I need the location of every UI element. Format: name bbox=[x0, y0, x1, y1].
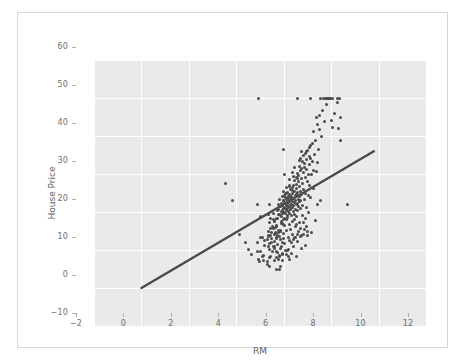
scatter-point bbox=[244, 241, 247, 244]
scatter-point bbox=[305, 150, 308, 153]
scatter-point bbox=[305, 206, 308, 209]
scatter-point bbox=[316, 123, 319, 126]
scatter-point bbox=[305, 225, 308, 228]
scatter-point bbox=[281, 195, 284, 198]
y-tick-mark bbox=[72, 313, 76, 314]
scatter-point bbox=[238, 233, 241, 236]
scatter-point bbox=[308, 146, 311, 149]
y-tick-mark bbox=[72, 161, 76, 162]
scatter-point bbox=[306, 234, 309, 237]
scatter-point bbox=[289, 228, 292, 231]
scatter-point bbox=[281, 252, 284, 255]
scatter-point bbox=[300, 247, 303, 250]
scatter-point bbox=[277, 229, 280, 232]
scatter-point bbox=[303, 162, 306, 165]
x-tick-label: 6 bbox=[251, 319, 281, 328]
x-tick-label: 8 bbox=[298, 319, 328, 328]
scatter-point bbox=[271, 250, 274, 253]
scatter-point bbox=[308, 163, 311, 166]
x-tick-mark bbox=[76, 313, 77, 317]
scatter-point bbox=[304, 217, 307, 220]
scatter-point bbox=[314, 219, 317, 222]
scatter-point bbox=[306, 180, 309, 183]
gridline-vertical bbox=[94, 60, 95, 326]
scatter-point bbox=[278, 268, 281, 271]
scatter-point bbox=[293, 218, 296, 221]
plot-panel bbox=[94, 60, 426, 326]
scatter-point bbox=[298, 221, 301, 224]
scatter-point bbox=[319, 199, 322, 202]
x-tick-mark bbox=[218, 313, 219, 317]
x-tick-mark bbox=[171, 313, 172, 317]
scatter-point bbox=[278, 198, 281, 201]
scatter-point bbox=[231, 199, 234, 202]
scatter-point bbox=[300, 234, 303, 237]
gridline-horizontal bbox=[94, 136, 426, 137]
y-tick-mark bbox=[72, 47, 76, 48]
scatter-point bbox=[273, 240, 276, 243]
gridline-horizontal bbox=[94, 174, 426, 175]
scatter-point bbox=[302, 233, 305, 236]
y-tick-label: −10 bbox=[40, 308, 68, 317]
x-tick-label: 4 bbox=[203, 319, 233, 328]
scatter-point bbox=[316, 203, 319, 206]
scatter-point bbox=[278, 254, 281, 257]
scatter-point bbox=[321, 109, 324, 112]
scatter-point bbox=[318, 128, 321, 131]
scatter-point bbox=[283, 242, 286, 245]
gridline-vertical bbox=[331, 60, 332, 326]
y-tick-label: 0 bbox=[40, 270, 68, 279]
scatter-point bbox=[294, 236, 297, 239]
scatter-point bbox=[292, 245, 295, 248]
scatter-point bbox=[224, 182, 227, 185]
x-tick-label: 10 bbox=[346, 319, 376, 328]
scatter-point bbox=[309, 196, 312, 199]
scatter-point bbox=[290, 252, 293, 255]
x-tick-label: 2 bbox=[156, 319, 186, 328]
figure-page: −2024681012−100102030405060 RM House Pri… bbox=[0, 0, 466, 363]
scatter-point bbox=[336, 101, 339, 104]
scatter-point bbox=[282, 237, 285, 240]
gridline-vertical bbox=[379, 60, 380, 326]
scatter-point bbox=[323, 120, 326, 123]
scatter-point bbox=[259, 250, 262, 253]
scatter-point bbox=[299, 169, 302, 172]
scatter-point bbox=[346, 203, 349, 206]
scatter-point bbox=[308, 184, 311, 187]
scatter-point bbox=[295, 255, 298, 258]
x-tick-mark bbox=[361, 313, 362, 317]
scatter-point bbox=[247, 248, 250, 251]
y-tick-label: 10 bbox=[40, 232, 68, 241]
y-tick-mark bbox=[72, 237, 76, 238]
scatter-point bbox=[306, 230, 309, 233]
x-axis-label: RM bbox=[94, 346, 426, 356]
y-tick-label: 30 bbox=[40, 156, 68, 165]
y-tick-mark bbox=[72, 123, 76, 124]
scatter-point bbox=[314, 139, 317, 142]
gridline-horizontal bbox=[94, 288, 426, 289]
scatter-point bbox=[312, 130, 315, 133]
scatter-point bbox=[337, 127, 340, 130]
gridline-vertical bbox=[236, 60, 237, 326]
scatter-point bbox=[331, 126, 334, 129]
scatter-point bbox=[256, 203, 259, 206]
scatter-point bbox=[283, 173, 286, 176]
gridline-vertical bbox=[141, 60, 142, 326]
scatter-point bbox=[307, 211, 310, 214]
scatter-point bbox=[293, 179, 296, 182]
scatter-point bbox=[259, 216, 262, 219]
scatter-point bbox=[310, 173, 313, 176]
scatter-point bbox=[262, 259, 265, 262]
scatter-point bbox=[282, 232, 285, 235]
scatter-point bbox=[285, 218, 288, 221]
scatter-point bbox=[333, 112, 336, 115]
scatter-point bbox=[250, 253, 253, 256]
scatter-point bbox=[276, 251, 279, 254]
scatter-point bbox=[257, 97, 260, 100]
scatter-point bbox=[296, 97, 299, 100]
scatter-point bbox=[302, 188, 305, 191]
x-tick-mark bbox=[266, 313, 267, 317]
y-axis-label: House Price bbox=[47, 166, 57, 219]
scatter-point bbox=[295, 215, 298, 218]
scatter-point bbox=[268, 203, 271, 206]
